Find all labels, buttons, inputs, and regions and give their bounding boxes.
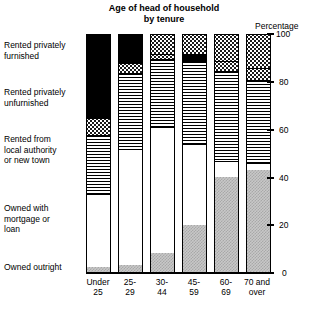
segment-owned-with-mortgage (215, 161, 238, 178)
segment-owned-outright (119, 265, 142, 272)
legend-label-line3: loan (4, 224, 20, 234)
y-tick-label-80: 80 (279, 77, 288, 87)
chart-title-line1: Age of head of household (109, 3, 220, 13)
segment-owned-with-mortgage (87, 194, 110, 267)
x-label-line1: 70 and (244, 277, 270, 287)
segment-owned-outright (215, 177, 238, 272)
legend-label-line3: or new town (4, 155, 50, 165)
legend-label-owned-outright: Owned outright (4, 262, 86, 273)
y-tick-100 (267, 33, 274, 35)
legend-label-line1: Owned outright (4, 262, 62, 272)
bar-30-44[interactable] (150, 34, 175, 273)
x-label-line2: 29 (125, 287, 134, 297)
segment-rented-privately-unfurnished (247, 68, 270, 80)
bar-60-69[interactable] (214, 34, 239, 273)
x-label-70-and-over: 70 and over (238, 277, 276, 297)
legend-label-rented-privately-unfurnished: Rented privately unfurnished (4, 87, 86, 108)
legend-label-line1: Rented privately (4, 87, 65, 97)
segment-rented-privately-unfurnished (183, 54, 206, 61)
legend-label-line1: Rented from (4, 134, 51, 144)
segment-rented-privately-furnished (247, 35, 270, 68)
segment-rented-privately-unfurnished (151, 54, 174, 59)
y-tick-80 (267, 81, 274, 83)
bar-under-25[interactable] (86, 34, 111, 273)
bar-70-and-over[interactable] (246, 34, 271, 273)
segment-rented-local-authority (87, 135, 110, 194)
y-tick-60 (267, 129, 274, 131)
legend-label-owned-with-mortgage: Owned with mortgage or loan (4, 203, 86, 235)
segment-rented-local-authority (151, 59, 174, 128)
x-label-line1: Under (86, 277, 109, 287)
segment-owned-with-mortgage (119, 149, 142, 265)
segment-rented-privately-unfurnished (119, 63, 142, 72)
x-axis-baseline (86, 272, 274, 274)
legend-label-rented-from-local-authority: Rented from local authority or new town (4, 134, 86, 166)
segment-owned-outright (151, 253, 174, 272)
segment-rented-privately-furnished (183, 35, 206, 54)
chart-title-line2: by tenure (144, 14, 185, 24)
chart-title: Age of head of household by tenure (74, 3, 254, 25)
legend-label-line1: Owned with (4, 203, 48, 213)
legend-label-line1: Rented privately (4, 40, 65, 50)
segment-rented-local-authority (247, 80, 270, 163)
segment-rented-local-authority (183, 61, 206, 144)
segment-rented-privately-furnished (119, 35, 142, 63)
y-tick-40 (267, 177, 274, 179)
x-label-line2: over (249, 287, 266, 297)
y-tick-label-100: 100 (276, 29, 290, 39)
segment-owned-with-mortgage (247, 163, 270, 170)
x-label-line2: 44 (157, 287, 166, 297)
bar-25-29[interactable] (118, 34, 143, 273)
y-tick-label-0: 0 (282, 268, 287, 278)
y-tick-20 (267, 224, 274, 226)
x-label-line2: 59 (189, 287, 198, 297)
segment-owned-with-mortgage (151, 127, 174, 253)
legend-label-line2: mortgage or (4, 214, 50, 224)
x-label-line1: 60- (220, 277, 232, 287)
chart-root: Age of head of household by tenure Perce… (0, 0, 314, 319)
legend-label-line2: local authority (4, 145, 56, 155)
x-label-line1: 30- (156, 277, 168, 287)
segment-rented-local-authority (119, 73, 142, 149)
segment-rented-privately-furnished (151, 35, 174, 54)
legend-label-line2: unfurnished (4, 98, 48, 108)
legend-label-line2: furnished (4, 51, 39, 61)
y-tick-label-40: 40 (279, 173, 288, 183)
segment-rented-local-authority (215, 71, 238, 161)
segment-owned-outright (247, 170, 270, 272)
segment-rented-privately-unfurnished (215, 61, 238, 70)
segment-rented-privately-furnished (87, 35, 110, 118)
plot-area (86, 34, 252, 273)
x-label-line1: 45- (188, 277, 200, 287)
segment-owned-with-mortgage (183, 144, 206, 225)
bar-45-59[interactable] (182, 34, 207, 273)
y-tick-label-20: 20 (279, 220, 288, 230)
segment-rented-privately-unfurnished (87, 118, 110, 135)
segment-rented-privately-furnished (215, 35, 238, 61)
x-label-line2: 25 (93, 287, 102, 297)
segment-owned-outright (183, 225, 206, 272)
x-label-line1: 25- (124, 277, 136, 287)
y-tick-label-60: 60 (279, 125, 288, 135)
legend-label-rented-privately-furnished: Rented privately furnished (4, 40, 86, 61)
x-label-line2: 69 (221, 287, 230, 297)
